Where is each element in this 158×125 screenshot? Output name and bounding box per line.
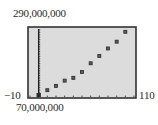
y-max-label: 290,000,000 bbox=[13, 8, 66, 19]
data-point bbox=[89, 62, 92, 65]
data-point bbox=[55, 84, 58, 87]
calculator-plot-screen bbox=[27, 26, 137, 99]
data-point bbox=[72, 76, 75, 79]
data-point bbox=[46, 89, 49, 92]
data-point bbox=[37, 93, 40, 96]
x-max-label: 110 bbox=[139, 90, 155, 101]
data-point bbox=[115, 40, 118, 43]
data-point bbox=[107, 47, 110, 50]
x-min-label: −10 bbox=[4, 90, 21, 101]
plot-background bbox=[28, 27, 136, 98]
y-min-label: 70,000,000 bbox=[16, 102, 64, 113]
data-point bbox=[98, 54, 101, 57]
data-point bbox=[124, 30, 127, 33]
data-point bbox=[63, 79, 66, 82]
data-point bbox=[81, 70, 84, 73]
